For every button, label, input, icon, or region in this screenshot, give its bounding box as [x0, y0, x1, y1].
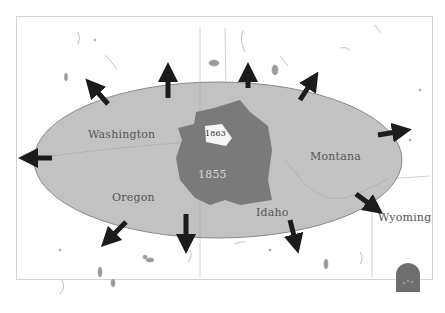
label-idaho: Idaho	[256, 206, 289, 219]
label-year-1855: 1855	[198, 168, 227, 181]
legend-arch-icon	[396, 263, 420, 292]
label-washington: Washington	[88, 128, 155, 141]
label-wyoming: Wyoming	[378, 211, 431, 224]
label-oregon: Oregon	[112, 191, 155, 204]
label-year-1863: 1863	[205, 129, 226, 138]
territory-map	[0, 0, 445, 313]
label-montana: Montana	[310, 150, 361, 163]
